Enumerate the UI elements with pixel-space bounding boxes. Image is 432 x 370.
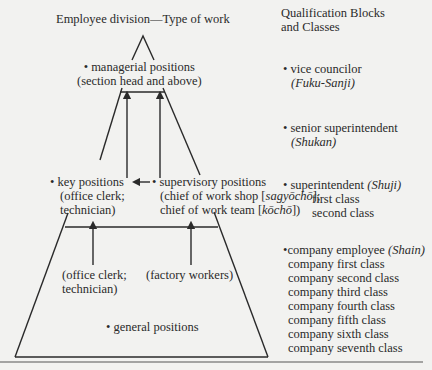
factory-workers-note: (factory workers) <box>146 268 233 282</box>
qual-company-employee: •company employee (Shain) company first … <box>283 243 425 355</box>
qual-vice-councilor: • vice councilor (Fuku-Sanji) <box>283 62 362 90</box>
left-header: Employee division—Type of work <box>56 12 230 26</box>
lower-left-note: (office clerk; technician) <box>62 268 127 296</box>
lower-left-leg <box>15 213 68 357</box>
upper-left-leg <box>100 88 122 160</box>
key-positions: • key positions (office clerk; technicia… <box>50 175 125 217</box>
upper-right-leg <box>163 88 200 175</box>
general-positions: • general positions <box>106 320 199 334</box>
right-header: Qualification Blocks and Classes <box>281 6 385 34</box>
qual-superintendent: • superintendent (Shuji) first class sec… <box>283 178 401 220</box>
managerial-positions: • managerial positions (section head and… <box>77 60 202 88</box>
apex-lines <box>132 36 154 60</box>
lower-right-leg <box>214 212 268 357</box>
qual-senior-superintendent: • senior superintendent (Shukan) <box>283 121 398 149</box>
